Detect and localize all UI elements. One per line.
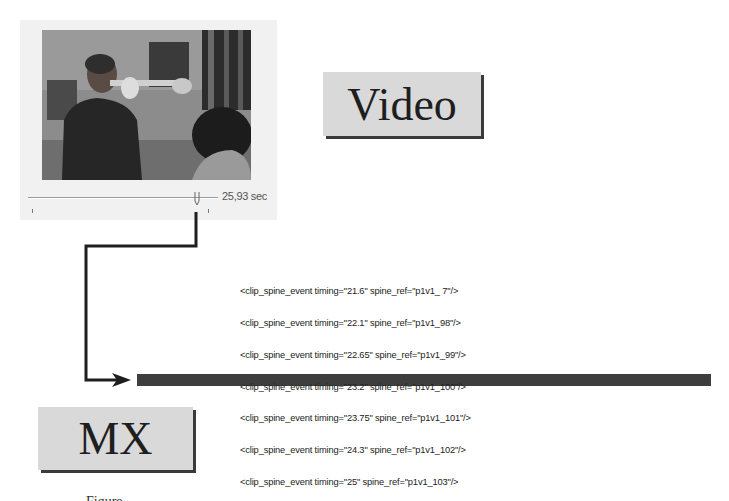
mx-code-listing: <clip_spine_event timing="21.6" spine_re… [240, 265, 471, 501]
code-line: <clip_spine_event timing="22.65" spine_r… [240, 350, 471, 361]
code-line: <clip_spine_event timing="22.1" spine_re… [240, 318, 471, 329]
code-line: <clip_spine_event timing="21.6" spine_re… [240, 286, 471, 297]
code-line: <clip_spine_event timing="24.3" spine_re… [240, 445, 471, 456]
code-line: <clip_spine_event timing="25" spine_ref=… [240, 477, 471, 488]
code-line: <clip_spine_event timing="23.2" spine_re… [240, 382, 471, 393]
code-line: <clip_spine_event timing="23.75" spine_r… [240, 413, 471, 424]
figure-caption: Figure [86, 494, 123, 501]
